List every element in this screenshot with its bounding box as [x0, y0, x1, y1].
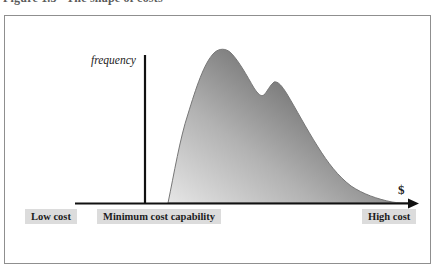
- figure-page: Figure 1.3 The shape of costs frequency …: [0, 0, 436, 275]
- label-high-cost: High cost: [362, 209, 416, 224]
- label-low-cost: Low cost: [25, 209, 77, 224]
- frequency-distribution-curve: [168, 49, 409, 203]
- figure-caption: Figure 1.3 The shape of costs: [3, 0, 433, 6]
- label-minimum-cost-capability: Minimum cost capability: [97, 209, 221, 224]
- y-axis-label: frequency: [91, 54, 136, 66]
- figure-caption-text: Figure 1.3 The shape of costs: [3, 0, 433, 6]
- x-axis-unit-label: $: [398, 182, 405, 198]
- distribution-plot: [5, 16, 430, 263]
- x-axis-arrowhead-icon: [408, 199, 419, 209]
- figure-frame: frequency $ Low cost Minimum cost capabi…: [4, 15, 431, 264]
